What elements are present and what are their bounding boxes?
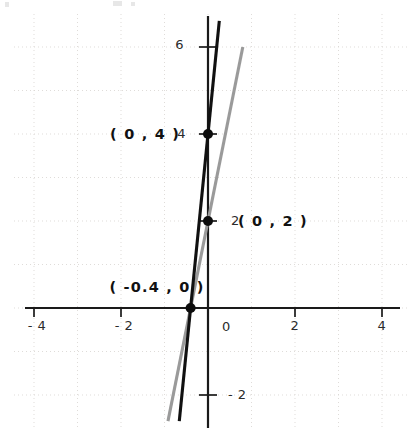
x-tick-label-4: 4: [378, 318, 387, 333]
point-marker-neg04-0: [186, 303, 196, 313]
coordinate-plane-svg: 6 4 2 - 2 - 4 - 2 0 2 4 ( 0 , 4 ) ( 0 , …: [0, 0, 416, 434]
annotation-label-neg04-0: ( -0.4 , 0 ): [109, 279, 204, 295]
x-tick-label-neg2: - 2: [115, 318, 134, 333]
x-tick-label-zero: 0: [222, 319, 231, 334]
x-tick-label-2: 2: [291, 318, 300, 333]
annotation-label-0-2: ( 0 , 2 ): [238, 213, 308, 229]
y-tick-label-6: 6: [175, 37, 184, 52]
point-marker-0-2: [203, 216, 213, 226]
y-tick-label-neg2: - 2: [228, 387, 247, 402]
graph-canvas: 6 4 2 - 2 - 4 - 2 0 2 4 ( 0 , 4 ) ( 0 , …: [0, 0, 416, 434]
annotation-label-0-4: ( 0 , 4 ): [110, 126, 180, 142]
x-tick-label-neg4: - 4: [28, 318, 47, 333]
point-marker-0-4: [203, 129, 213, 139]
